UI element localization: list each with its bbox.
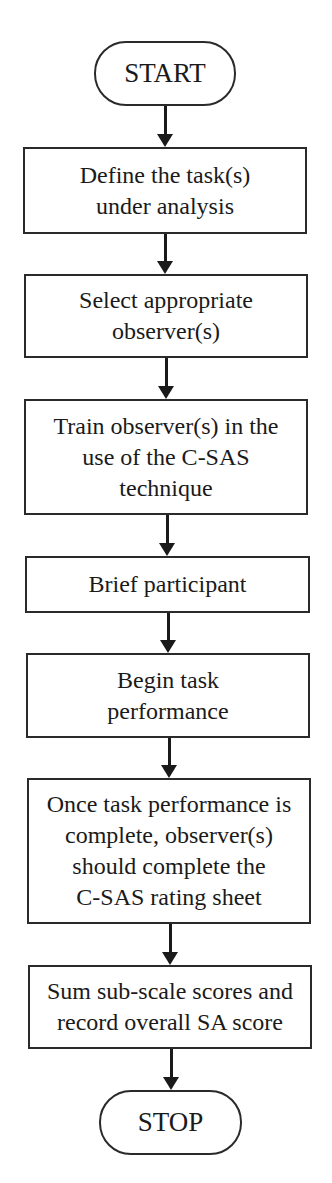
step-label: Select appropriate observer(s) <box>79 285 253 347</box>
step-select-observers: Select appropriate observer(s) <box>24 274 308 358</box>
arrow-step-6-to-step-7 <box>162 924 178 965</box>
arrow-step-1-to-step-2 <box>157 234 173 274</box>
stop-terminal: STOP <box>99 1090 242 1155</box>
step-label: Train observer(s) in the use of the C-SA… <box>53 411 278 504</box>
step-complete-rating-sheet: Once task performance is complete, obser… <box>27 778 311 924</box>
step-label: Brief participant <box>89 569 247 600</box>
arrow-step-2-to-step-3 <box>158 358 174 399</box>
arrowhead-icon <box>159 543 175 556</box>
arrowhead-icon <box>162 952 178 965</box>
step-train-observers: Train observer(s) in the use of the C-SA… <box>24 399 308 515</box>
stop-label: STOP <box>138 1107 204 1138</box>
step-sum-scores: Sum sub-scale scores and record overall … <box>28 965 312 1049</box>
start-label: START <box>124 58 206 89</box>
arrow-step-5-to-step-6 <box>161 738 177 778</box>
step-brief-participant: Brief participant <box>25 556 310 613</box>
arrow-step-7-to-stop <box>163 1049 179 1090</box>
arrow-start-to-step-1 <box>157 106 173 147</box>
arrowhead-icon <box>157 134 173 147</box>
arrow-step-3-to-step-4 <box>159 515 175 556</box>
step-define-task: Define the task(s) under analysis <box>23 147 307 234</box>
arrowhead-icon <box>160 640 176 653</box>
start-terminal: START <box>94 41 236 106</box>
arrow-step-4-to-step-5 <box>160 613 176 653</box>
step-begin-task: Begin task performance <box>26 653 310 738</box>
step-label: Begin task performance <box>107 665 228 727</box>
step-label: Once task performance is complete, obser… <box>47 789 292 913</box>
arrowhead-icon <box>158 386 174 399</box>
step-label: Define the task(s) under analysis <box>80 160 251 222</box>
arrowhead-icon <box>163 1077 179 1090</box>
arrowhead-icon <box>157 261 173 274</box>
step-label: Sum sub-scale scores and record overall … <box>47 976 293 1038</box>
arrowhead-icon <box>161 765 177 778</box>
